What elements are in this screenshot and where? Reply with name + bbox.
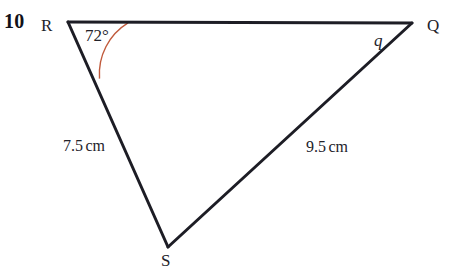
vertex-label-s: S: [161, 252, 170, 269]
side-rs-unit: cm: [86, 137, 106, 154]
side-qs-number: 9.5: [306, 138, 326, 155]
diagram-page: 10 R Q S 72° q 7.5cm 9.5cm: [0, 0, 452, 278]
angle-label-72: 72°: [85, 27, 109, 44]
vertex-label-r: R: [41, 17, 52, 34]
side-label-rs: 7.5cm: [63, 138, 105, 154]
side-label-qs: 9.5cm: [306, 139, 348, 155]
vertex-label-q: Q: [427, 17, 439, 34]
side-rs-line: [68, 22, 168, 247]
side-rq-line: [68, 22, 412, 23]
side-label-q: q: [374, 32, 383, 49]
question-number: 10: [4, 11, 24, 31]
side-rs-number: 7.5: [63, 137, 83, 154]
side-qs-unit: cm: [329, 138, 349, 155]
side-qs-line: [168, 23, 412, 247]
